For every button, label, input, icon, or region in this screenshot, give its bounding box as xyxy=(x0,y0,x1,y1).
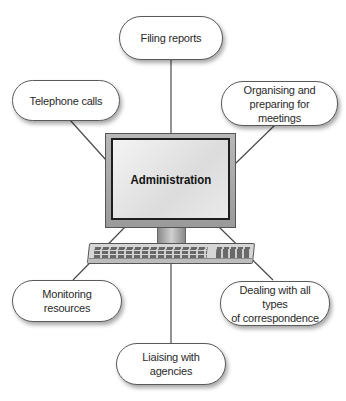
node-organising-meetings: Organising and preparing for meetings xyxy=(221,81,338,126)
monitor-screen: Administration xyxy=(111,138,230,220)
node-organising-meetings-line2: preparing for meetings xyxy=(228,97,331,125)
keyboard-icon xyxy=(87,243,255,264)
connector-meetings xyxy=(236,124,276,163)
monitor-stand xyxy=(157,228,186,243)
node-dealing-correspondence: Dealing with all types of correspondence xyxy=(220,281,330,326)
administration-diagram: Filing reports Telephone calls Organisin… xyxy=(0,0,346,401)
keyboard-numpad xyxy=(216,247,251,258)
computer-monitor: Administration xyxy=(105,133,236,228)
node-dealing-correspondence-line1: Dealing with all types xyxy=(227,283,323,311)
node-organising-meetings-line1: Organising and xyxy=(244,83,316,97)
node-filing-reports: Filing reports xyxy=(119,16,223,60)
node-dealing-correspondence-line2: of correspondence xyxy=(231,311,319,325)
node-filing-reports-label: Filing reports xyxy=(141,31,202,45)
key-row-divider xyxy=(94,254,207,255)
key-row-divider xyxy=(94,250,207,251)
center-label-administration: Administration xyxy=(130,172,211,187)
node-telephone-calls-label: Telephone calls xyxy=(30,94,103,108)
node-monitoring-resources: Monitoring resources xyxy=(12,280,122,322)
connector-telephone xyxy=(70,120,106,160)
node-liaising-agencies: Liaising with agencies xyxy=(116,343,226,385)
node-liaising-agencies-label: Liaising with agencies xyxy=(123,350,219,378)
node-telephone-calls: Telephone calls xyxy=(12,80,120,121)
keyboard-front-edge xyxy=(88,258,253,263)
keyboard-keys xyxy=(94,247,208,258)
node-monitoring-resources-label: Monitoring resources xyxy=(19,287,115,315)
